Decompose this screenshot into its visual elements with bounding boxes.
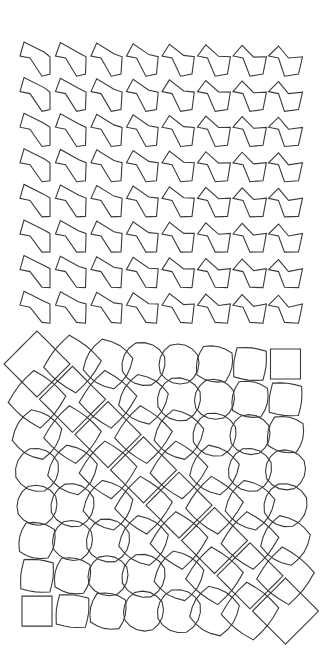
flag-shape <box>56 78 87 111</box>
morph-shape <box>154 551 204 601</box>
morph-shape <box>234 348 267 381</box>
flag-shape <box>233 45 266 76</box>
flag-shape <box>91 257 122 288</box>
morph-shape <box>111 437 177 503</box>
flag-shape <box>198 259 231 288</box>
morph-shape <box>225 480 275 530</box>
flag-shape <box>127 293 159 323</box>
flag-shape <box>269 46 303 76</box>
morph-shape <box>267 417 303 453</box>
morph-shape <box>221 582 279 640</box>
morph-shape <box>119 516 169 566</box>
flag-shape <box>198 116 231 146</box>
morph-shape <box>196 346 232 382</box>
flag-shape <box>198 294 231 323</box>
flag-shape <box>127 79 159 111</box>
morph-shape <box>22 596 52 626</box>
morph-shape <box>182 508 248 574</box>
flag-shape <box>162 222 194 252</box>
flag-shape <box>162 294 194 324</box>
top-pattern-grid <box>0 0 321 326</box>
morph-shape <box>19 522 55 558</box>
morph-shape <box>4 331 70 397</box>
flag-shape <box>198 187 231 217</box>
morph-shape <box>119 375 169 425</box>
flag-shape <box>233 188 266 217</box>
morph-shape <box>12 410 62 460</box>
morph-shape <box>48 445 98 495</box>
flag-shape <box>198 152 231 182</box>
bottom-pattern-canvas <box>0 326 321 653</box>
flag-shape <box>127 115 159 147</box>
flag-shape <box>269 117 303 146</box>
flag-shape <box>162 151 194 182</box>
flag-shape <box>56 43 87 77</box>
morph-shape <box>232 381 268 417</box>
flag-shape <box>20 220 50 252</box>
morph-shape <box>21 559 54 592</box>
morph-shape <box>56 595 89 628</box>
morph-shape <box>90 593 126 629</box>
morph-shape <box>158 590 201 633</box>
flag-shape <box>162 187 194 217</box>
morph-shape <box>269 383 302 416</box>
morph-shape <box>54 558 90 594</box>
flag-shape <box>56 221 87 253</box>
flag-shape <box>20 113 50 146</box>
flag-shape <box>269 260 303 288</box>
flag-shape <box>91 221 122 252</box>
flag-shape <box>269 224 303 252</box>
morph-shape <box>146 472 212 538</box>
flag-shape <box>91 43 122 76</box>
flag-shape <box>56 185 87 217</box>
morph-shape <box>261 516 311 566</box>
flag-shape <box>91 292 122 323</box>
flag-shape <box>20 78 50 112</box>
flag-shape <box>20 184 50 217</box>
bottom-pattern-grid <box>0 326 321 653</box>
flag-shape <box>162 116 194 147</box>
morph-shape <box>217 543 283 609</box>
flag-shape <box>198 45 231 76</box>
flag-shape <box>233 152 266 182</box>
morph-shape <box>190 445 240 495</box>
flag-shape <box>269 295 303 323</box>
flag-shape <box>269 153 303 182</box>
morph-shape <box>253 578 319 644</box>
flag-shape <box>127 222 159 252</box>
flag-shape <box>198 81 231 112</box>
flag-shape <box>233 117 266 147</box>
flag-shape <box>91 79 122 112</box>
flag-shape <box>127 257 159 287</box>
top-pattern-canvas <box>0 0 321 326</box>
morph-shape <box>83 480 133 530</box>
flag-shape <box>56 292 87 323</box>
flag-shape <box>233 295 266 324</box>
morph-shape <box>8 371 66 429</box>
flag-shape <box>233 259 266 288</box>
flag-shape <box>56 114 87 147</box>
flag-shape <box>127 44 159 76</box>
flag-shape <box>20 42 50 76</box>
morph-shape <box>154 410 204 460</box>
morph-shape <box>40 366 106 432</box>
flag-shape <box>91 150 122 182</box>
morph-shape <box>190 586 240 636</box>
morph-shape <box>83 339 133 389</box>
morph-shape <box>271 349 301 379</box>
flag-shape <box>233 223 266 252</box>
flag-shape <box>162 80 194 112</box>
flag-shape <box>91 186 122 217</box>
flag-shape <box>233 81 266 111</box>
flag-shape <box>269 188 303 217</box>
morph-shape <box>44 335 102 393</box>
flag-shape <box>162 258 194 288</box>
flag-shape <box>91 114 122 146</box>
flag-shape <box>162 44 194 76</box>
flag-shape <box>20 291 50 323</box>
flag-shape <box>20 256 50 288</box>
morph-shape <box>75 402 141 468</box>
flag-shape <box>198 223 231 252</box>
flag-shape <box>56 256 87 287</box>
morph-shape <box>257 547 315 605</box>
